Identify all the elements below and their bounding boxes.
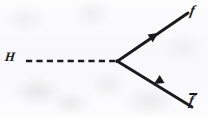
antifermion-line-lower [117,61,192,107]
feynman-diagram: H f f [0,0,208,117]
interaction-vertex [116,59,119,62]
higgs-particle-label: H [4,50,15,63]
diagram-canvas [0,0,208,117]
